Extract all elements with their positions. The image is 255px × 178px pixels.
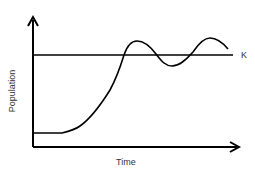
k-label: K <box>241 50 247 60</box>
chart-canvas <box>0 0 255 178</box>
x-axis-label: Time <box>116 157 136 167</box>
y-axis-label-wrap: Population <box>3 0 21 178</box>
population-curve <box>33 38 228 133</box>
y-axis-label: Population <box>7 70 17 113</box>
